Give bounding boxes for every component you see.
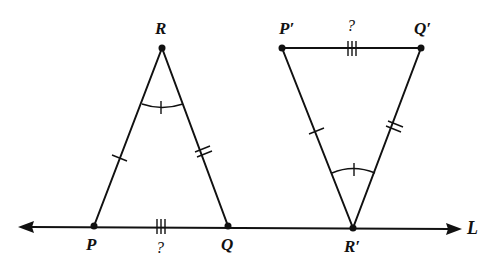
label-p: P <box>85 235 97 254</box>
label-unknown-pq: ? <box>156 239 164 256</box>
line-l <box>18 221 462 235</box>
side-rp-prime <box>282 48 353 228</box>
vertex-p <box>91 223 98 230</box>
tick-rq-prime-2 <box>386 126 401 132</box>
angle-arc-r <box>142 104 183 108</box>
left-arrowhead-icon <box>18 221 34 233</box>
tick-rq-2 <box>197 151 212 157</box>
triangle-pqr <box>91 45 232 235</box>
label-r: R <box>154 19 166 38</box>
triangle-pqr-prime <box>279 41 425 232</box>
vertex-r <box>159 45 166 52</box>
vertex-q-prime <box>418 45 425 52</box>
vertex-r-prime <box>350 225 357 232</box>
right-arrowhead-icon <box>446 223 462 235</box>
side-rq <box>162 48 228 226</box>
label-line-l: L <box>466 218 478 238</box>
label-r-prime: R′ <box>343 237 360 256</box>
label-q-prime: Q′ <box>414 19 431 38</box>
label-unknown-pq-prime: ? <box>347 17 355 34</box>
vertex-p-prime <box>279 45 286 52</box>
side-rq-prime <box>353 48 421 228</box>
label-q: Q <box>221 235 233 254</box>
vertex-q <box>225 223 232 230</box>
geometry-diagram: R P Q ? P′ Q′ ? R′ L <box>0 0 500 272</box>
tick-rq-1 <box>195 146 210 152</box>
tick-rq-prime-1 <box>388 121 403 127</box>
label-p-prime: P′ <box>278 19 294 38</box>
side-rp <box>94 48 162 226</box>
